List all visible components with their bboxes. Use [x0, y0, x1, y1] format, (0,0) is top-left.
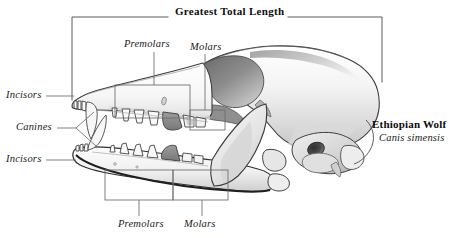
occipital-condyle — [341, 145, 364, 169]
mental-foramen-2 — [136, 166, 138, 168]
lower-premolar-2 — [120, 143, 129, 154]
lower-carnassial — [161, 145, 180, 161]
lower-molar-3 — [194, 155, 203, 164]
zygomatic-arch — [204, 56, 264, 108]
lower-premolar-1 — [110, 145, 115, 152]
lower-premolar-4 — [147, 145, 158, 158]
label-upper-incisors: Incisors — [6, 89, 41, 100]
upper-incisor-1 — [74, 101, 77, 109]
upper-premolar-3 — [134, 110, 144, 123]
skull-diagram-figure: Greatest Total Length Premolars Molars I… — [0, 0, 457, 238]
label-upper-molars: Molars — [190, 41, 222, 52]
label-lower-incisors: Incisors — [6, 153, 41, 164]
upper-incisor-2 — [78, 101, 81, 110]
upper-molar-shading — [186, 118, 196, 125]
upper-premolar-2 — [122, 109, 130, 121]
page-title: Greatest Total Length — [175, 5, 284, 17]
lower-incisor-2 — [80, 144, 83, 151]
upper-molar-2 — [196, 117, 206, 127]
upper-premolar-1 — [112, 108, 117, 117]
species-scientific-name: Canis simensis — [379, 132, 445, 143]
mental-foramen-1 — [114, 163, 117, 166]
label-lower-molars: Molars — [184, 218, 216, 229]
label-lower-premolars: Premolars — [118, 218, 164, 229]
upper-incisor-3 — [82, 101, 86, 111]
lower-premolar-3 — [133, 144, 143, 156]
label-upper-premolars: Premolars — [124, 38, 170, 49]
lower-incisor-3 — [84, 144, 88, 151]
species-common-name: Ethiopian Wolf — [372, 118, 446, 130]
condylar-process — [263, 149, 286, 171]
lower-incisor-1 — [76, 145, 79, 151]
lower-molar-2 — [182, 153, 192, 162]
label-canines: Canines — [16, 121, 52, 132]
angular-process — [268, 174, 289, 191]
